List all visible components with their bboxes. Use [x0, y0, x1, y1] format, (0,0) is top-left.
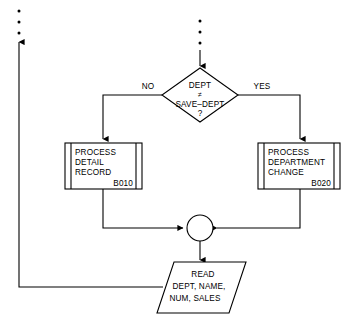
- process-left-line2: DETAIL: [75, 158, 104, 167]
- process-right-group: PROCESS DEPARTMENT CHANGE B020: [258, 143, 340, 189]
- io-read-line2: DEPT, NAME,: [172, 282, 225, 291]
- top-continuation-marks: [199, 20, 202, 45]
- connector-circle: [187, 215, 213, 241]
- decision-operator-not-equal: ≠: [198, 91, 202, 98]
- edge-right-process-to-connector: [217, 189, 300, 228]
- io-read-line3: NUM, SALES: [169, 294, 220, 303]
- io-read-line1: READ: [191, 270, 214, 279]
- process-right-ref-id: B020: [311, 179, 331, 188]
- decision-line3: ?: [198, 109, 203, 118]
- io-read-group: READ DEPT, NAME, NUM, SALES: [157, 262, 246, 313]
- process-left-ref-id: B010: [113, 179, 133, 188]
- process-right-line2: DEPARTMENT: [268, 158, 325, 167]
- edge-left-process-to-connector: [103, 189, 183, 228]
- process-left-group: PROCESS DETAIL RECORD B010: [65, 143, 142, 189]
- left-continuation-marks: [18, 10, 21, 35]
- flowchart-canvas: DEPT ≠ SAVE–DEPT ? NO YES PROCESS DETAIL…: [0, 0, 357, 329]
- process-right-line3: CHANGE: [268, 168, 304, 177]
- label-no: NO: [142, 82, 155, 91]
- process-left-line1: PROCESS: [75, 148, 116, 157]
- process-right-line1: PROCESS: [268, 148, 309, 157]
- edge-yes-branch: [238, 95, 300, 139]
- label-yes: YES: [254, 82, 271, 91]
- process-left-line3: RECORD: [75, 168, 111, 177]
- decision-line2: SAVE–DEPT: [176, 100, 225, 109]
- decision-line1: DEPT: [189, 81, 211, 90]
- edge-no-branch: [103, 95, 162, 139]
- flowchart-svg: DEPT ≠ SAVE–DEPT ? NO YES PROCESS DETAIL…: [0, 0, 357, 329]
